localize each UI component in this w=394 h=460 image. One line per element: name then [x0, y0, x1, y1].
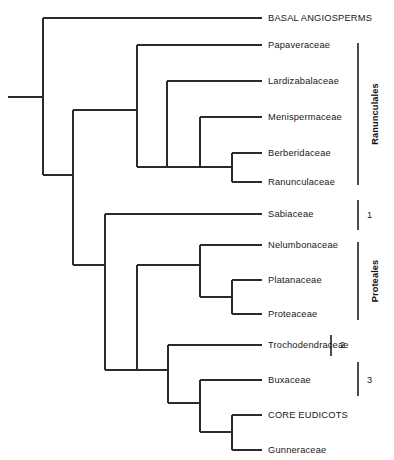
tip-label-basal-angiosperms: BASAL ANGIOSPERMS [268, 13, 372, 23]
clade-label-proteales: Proteales [370, 260, 380, 303]
clade-label-ranunculales: Ranunculales [370, 83, 380, 145]
cladogram-branches [0, 0, 394, 460]
tip-label-lardizabalaceae: Lardizabalaceae [268, 76, 339, 86]
tip-label-platanaceae: Platanaceae [268, 275, 322, 285]
tip-label-menispermaceae: Menispermaceae [268, 112, 342, 122]
clade-label-note-2: 2 [340, 340, 345, 350]
tip-label-proteaceae: Proteaceae [268, 309, 317, 319]
phylogenetic-tree-figure: BASAL ANGIOSPERMS Papaveraceae Lardizaba… [0, 0, 394, 460]
tip-label-papaveraceae: Papaveraceae [268, 40, 330, 50]
tip-label-gunneraceae: Gunneraceae [268, 445, 326, 455]
tip-label-berberidaceae: Berberidaceae [268, 148, 331, 158]
tip-label-core-eudicots: CORE EUDICOTS [268, 410, 348, 420]
tip-label-ranunculaceae: Ranunculaceae [268, 177, 335, 187]
tip-label-nelumbonaceae: Nelumbonaceae [268, 240, 338, 250]
tip-label-trochodendraceae: Trochodendraceae [268, 340, 349, 350]
clade-label-note-3: 3 [367, 375, 372, 385]
tip-label-buxaceae: Buxaceae [268, 375, 311, 385]
tip-label-sabiaceae: Sabiaceae [268, 209, 314, 219]
clade-label-note-1: 1 [367, 210, 372, 220]
